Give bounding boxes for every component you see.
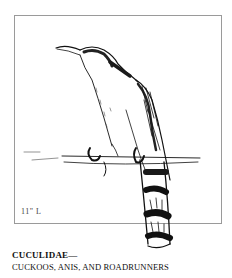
common-names: CUCKOOS, ANIS, AND ROADRUNNERS — [12, 262, 169, 272]
cuckoo-illustration — [0, 0, 232, 278]
size-label: 11" L — [21, 207, 41, 216]
family-name: CUCULIDAE— — [12, 250, 78, 260]
